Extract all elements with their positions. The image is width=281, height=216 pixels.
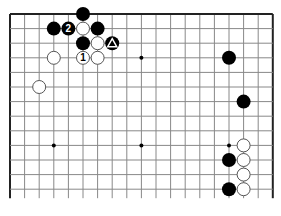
board-grid bbox=[10, 14, 273, 198]
star-point bbox=[227, 143, 231, 147]
white-stone bbox=[91, 51, 104, 64]
black-stone bbox=[76, 7, 90, 21]
star-point bbox=[52, 143, 56, 147]
star-point bbox=[139, 143, 143, 147]
white-stone: 1 bbox=[77, 51, 90, 64]
white-stone bbox=[237, 139, 250, 152]
white-stone bbox=[33, 81, 46, 94]
white-stone bbox=[237, 183, 250, 196]
move-number: 1 bbox=[80, 52, 86, 63]
white-stone bbox=[47, 51, 60, 64]
black-stone bbox=[222, 182, 236, 196]
white-stone bbox=[237, 154, 250, 167]
black-stone: 2 bbox=[61, 22, 75, 36]
move-number: 2 bbox=[66, 23, 72, 34]
black-stone bbox=[105, 36, 119, 50]
white-stone bbox=[91, 37, 104, 50]
white-stone bbox=[77, 22, 90, 35]
black-stone bbox=[222, 153, 236, 167]
go-board: 21 bbox=[0, 0, 281, 216]
black-stone bbox=[237, 95, 251, 109]
black-stone bbox=[76, 36, 90, 50]
black-stone bbox=[91, 22, 105, 36]
white-stone bbox=[237, 168, 250, 181]
black-stone bbox=[222, 51, 236, 65]
black-stone bbox=[47, 22, 61, 36]
star-point bbox=[139, 56, 143, 60]
